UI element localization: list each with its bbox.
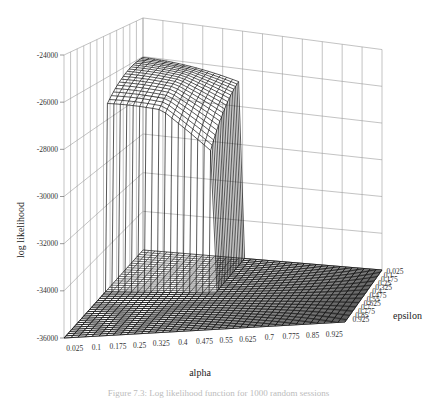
svg-text:0.775: 0.775 <box>283 332 300 341</box>
svg-text:0.55: 0.55 <box>220 336 233 345</box>
svg-text:0.175: 0.175 <box>110 342 127 351</box>
y-axis-label: epsilon <box>393 310 422 321</box>
svg-text:0.4: 0.4 <box>178 338 188 347</box>
z-axis-ticks: -24000-26000-28000-30000-32000-34000-360… <box>37 51 64 343</box>
svg-text:-24000: -24000 <box>37 51 58 60</box>
z-axis-label: log likelihood <box>15 202 26 258</box>
svg-text:0.25: 0.25 <box>133 341 146 350</box>
svg-text:0.7: 0.7 <box>265 333 275 342</box>
svg-text:0.325: 0.325 <box>153 339 170 348</box>
svg-text:0.1: 0.1 <box>92 343 102 352</box>
svg-text:-36000: -36000 <box>37 334 58 343</box>
svg-text:-26000: -26000 <box>37 98 58 107</box>
svg-text:-28000: -28000 <box>37 145 58 154</box>
svg-text:-30000: -30000 <box>37 192 58 201</box>
surface-wireframe <box>64 57 382 338</box>
figure-caption: Figure 7.3: Log likelihood function for … <box>0 388 437 398</box>
svg-text:-32000: -32000 <box>37 239 58 248</box>
svg-text:0.85: 0.85 <box>306 331 319 340</box>
svg-text:0.025: 0.025 <box>66 344 83 353</box>
x-axis-label: alpha <box>189 367 211 378</box>
svg-text:0.625: 0.625 <box>239 335 256 344</box>
svg-text:0.925: 0.925 <box>352 315 369 324</box>
svg-text:0.925: 0.925 <box>326 330 343 339</box>
svg-text:0.475: 0.475 <box>196 337 213 346</box>
svg-text:-34000: -34000 <box>37 286 58 295</box>
